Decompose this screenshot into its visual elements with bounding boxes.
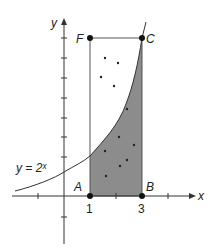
x-tick-label-3: 3 (138, 202, 145, 216)
x-axis-label: x (197, 189, 205, 203)
monte-carlo-area-diagram: y x F C A B 1 3 y = 2ˣ (0, 0, 217, 250)
point-F (87, 35, 93, 41)
x-tick-label-1: 1 (86, 202, 93, 216)
label-C: C (146, 32, 155, 46)
function-label: y = 2ˣ (15, 161, 47, 175)
label-B: B (146, 180, 154, 194)
label-A: A (73, 180, 82, 194)
shaded-area-under-curve (90, 38, 142, 196)
y-axis-label: y (50, 16, 58, 30)
y-axis (61, 18, 67, 244)
point-A (87, 193, 93, 199)
label-F: F (76, 32, 84, 46)
point-C (139, 35, 145, 41)
point-B (139, 193, 145, 199)
